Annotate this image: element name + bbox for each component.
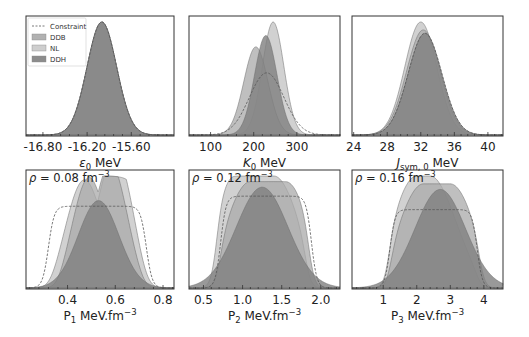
density-annotation: ρ = 0.12 fm−3 (192, 170, 273, 185)
x-tick-label: 4 (480, 293, 488, 307)
legend-ddh-swatch (32, 56, 46, 62)
legend-ddb-swatch (32, 34, 46, 40)
x-tick-label: 2 (413, 293, 421, 307)
x-tick-label: 36 (447, 140, 462, 154)
legend: ConstraintDDBNLDDH (28, 18, 87, 66)
x-axis-label: P2 MeV.fm−3 (228, 307, 301, 325)
x-tick-label: 2.0 (311, 293, 330, 307)
legend-nl-swatch (32, 45, 46, 51)
x-tick-label: -16.20 (68, 140, 107, 154)
x-tick-label: 0.8 (153, 293, 172, 307)
x-tick-label: -16.80 (24, 140, 63, 154)
figure-canvas: -16.80-16.20-15.60ε0 MeV100200300K0 MeV2… (0, 0, 529, 337)
density-annotation: ρ = 0.08 fm−3 (29, 170, 110, 185)
panel-jsym0: 2428323640Jsym, 0 MeV (346, 16, 503, 172)
legend-label: DDH (50, 56, 66, 64)
legend-label: NL (50, 45, 59, 53)
panel-p3: 1234P3 MeV.fm−3ρ = 0.16 fm−3 (352, 170, 503, 325)
x-tick-label: -15.60 (112, 140, 151, 154)
density-ddh (189, 187, 340, 288)
x-tick-label: 28 (380, 140, 395, 154)
density-ddh (189, 36, 340, 135)
density-ddh (26, 201, 174, 288)
x-tick-label: 300 (285, 140, 308, 154)
density-ddh (352, 33, 503, 135)
x-tick-label: 1.0 (233, 293, 252, 307)
panel-p2: 0.51.01.52.0P2 MeV.fm−3ρ = 0.12 fm−3 (189, 170, 340, 325)
density-ddh (352, 189, 503, 288)
x-tick-label: 24 (346, 140, 361, 154)
x-tick-label: 3 (446, 293, 454, 307)
x-axis-label: P1 MeV.fm−3 (63, 307, 136, 325)
panel-p1: 0.40.60.8P1 MeV.fm−3ρ = 0.08 fm−3 (26, 170, 174, 325)
x-tick-label: 1.5 (272, 293, 291, 307)
x-tick-label: 32 (413, 140, 428, 154)
x-axis-label: P3 MeV.fm−3 (391, 307, 464, 325)
x-tick-label: 0.6 (106, 293, 125, 307)
x-tick-label: 0.5 (194, 293, 213, 307)
x-tick-label: 100 (199, 140, 222, 154)
x-tick-label: 200 (242, 140, 265, 154)
legend-label: DDB (50, 34, 66, 42)
x-tick-label: 40 (480, 140, 495, 154)
panel-k0: 100200300K0 MeV (189, 16, 340, 172)
legend-label: Constraint (50, 23, 87, 31)
x-tick-label: 1 (379, 293, 387, 307)
x-tick-label: 0.4 (58, 293, 77, 307)
density-annotation: ρ = 0.16 fm−3 (355, 170, 436, 185)
